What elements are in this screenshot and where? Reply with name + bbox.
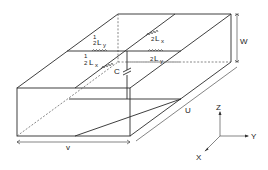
lx-left-frac-num: 1 (84, 53, 88, 59)
v-label: V (66, 143, 70, 152)
lx-right-symbol: L (155, 34, 160, 43)
x-axis-label: X (196, 153, 202, 162)
u-label: U (185, 106, 191, 115)
right-face-edges (130, 14, 231, 136)
w-label: W (240, 37, 248, 46)
top-grid-lines (67, 14, 181, 88)
capacitor-label: C (114, 67, 120, 76)
ly-left-symbol: L (97, 38, 102, 47)
lx-left-subscript: x (95, 62, 98, 68)
ly-right-symbol: L (154, 54, 159, 63)
front-face (17, 88, 130, 136)
y-axis-label: Y (251, 132, 257, 141)
bottom-mid-line-x (75, 99, 181, 136)
circuit-labels: 1 2 L y 2 L x 1 2 L x 2 L y C (84, 34, 164, 76)
lx-left-frac-den: 2 (84, 60, 88, 66)
lx-left-symbol: L (89, 58, 94, 67)
lx-right-subscript: x (161, 38, 164, 44)
diagram-canvas: 1 2 L y 2 L x 1 2 L x 2 L y C W U V Z (0, 0, 268, 170)
ly-right-subscript: y (160, 58, 163, 64)
ly-left-subscript: y (103, 42, 106, 48)
dimension-markers: W U V (17, 14, 248, 152)
coordinate-axes: Z Y X (196, 103, 257, 162)
box-lc-circuit-diagram: 1 2 L y 2 L x 1 2 L x 2 L y C W U V Z (0, 0, 268, 170)
u-dimension-line (136, 67, 237, 141)
z-axis-label: Z (216, 103, 221, 112)
